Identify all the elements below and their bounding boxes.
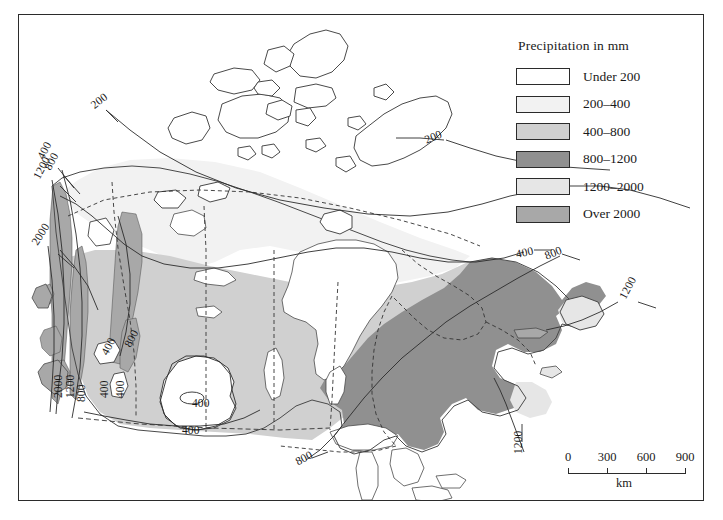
contour-label-400-15: 400 xyxy=(114,380,126,398)
scale-tick-600: 600 xyxy=(637,450,656,465)
island-pei xyxy=(540,366,562,378)
scale-rule xyxy=(562,466,702,475)
island-bathurst xyxy=(254,80,280,96)
legend-swatch-400-800 xyxy=(516,123,570,140)
leader-800-right xyxy=(562,254,580,260)
legend-item-400-800: 400–800 xyxy=(516,122,701,141)
legend-item-1200-2000: 1200–2000 xyxy=(516,177,701,196)
island-axel-heiberg xyxy=(264,46,294,72)
zone-1200-2000-ns xyxy=(510,382,552,418)
map-legend: Precipitation in mm Under 200 200–400 40… xyxy=(516,38,701,232)
legend-item-under-200: Under 200 xyxy=(516,67,701,86)
legend-label-over-2000: Over 2000 xyxy=(583,206,640,222)
legend-label-under-200: Under 200 xyxy=(583,69,640,85)
contour-label-800-13: 800 xyxy=(75,384,87,402)
scale-tick-300: 300 xyxy=(598,450,617,465)
scale-unit-label: km xyxy=(562,476,702,491)
contour-label-2000-11: 2000 xyxy=(52,375,64,398)
island-small-b xyxy=(262,144,280,158)
leader-200-left xyxy=(106,110,118,122)
lake-ontario xyxy=(436,474,466,488)
island-banks xyxy=(168,112,210,144)
scale-tick-mark-2 xyxy=(646,468,647,474)
island-small-d xyxy=(336,156,356,172)
precipitation-map-page: 2004008001200200020040080012004008002000… xyxy=(0,0,723,520)
scale-tick-mark-3 xyxy=(685,468,686,474)
legend-swatch-under-200 xyxy=(516,68,570,85)
island-ellesmere xyxy=(288,30,348,78)
contour-label-400-16: 400 xyxy=(192,397,210,409)
legend-label-400-800: 400–800 xyxy=(583,124,630,140)
legend-label-200-400: 200–400 xyxy=(583,96,630,112)
legend-swatch-200-400 xyxy=(516,96,570,113)
island-somerset xyxy=(296,108,316,126)
island-small-a xyxy=(238,146,256,160)
leader-800-bottom xyxy=(312,452,328,458)
contour-label-400-14: 400 xyxy=(98,380,110,398)
island-melville xyxy=(210,68,260,94)
contour-label-1200-19: 1200 xyxy=(512,431,524,454)
legend-swatch-over-2000 xyxy=(516,206,570,223)
legend-title: Precipitation in mm xyxy=(518,38,701,54)
scale-tick-900: 900 xyxy=(676,450,695,465)
island-small-c xyxy=(306,138,326,152)
lake-michigan xyxy=(356,452,378,500)
contour-label-400-17: 400 xyxy=(182,424,200,436)
island-devon xyxy=(294,84,336,108)
scale-tick-mark-1 xyxy=(607,468,608,474)
leader-1200-right xyxy=(638,302,656,308)
legend-item-200-400: 200–400 xyxy=(516,95,701,114)
island-small-g xyxy=(374,84,394,100)
legend-label-800-1200: 800–1200 xyxy=(583,151,637,167)
legend-item-over-2000: Over 2000 xyxy=(516,205,701,224)
scale-tick-mark-0 xyxy=(568,468,569,474)
map-scale-bar: 0 300 600 900 km xyxy=(562,450,702,491)
island-small-h xyxy=(348,116,366,130)
scale-tick-labels: 0 300 600 900 xyxy=(562,450,702,465)
legend-swatch-800-1200 xyxy=(516,151,570,168)
legend-swatch-1200-2000 xyxy=(516,178,570,195)
scale-tick-0: 0 xyxy=(565,450,571,465)
lake-huron xyxy=(390,448,424,486)
legend-item-800-1200: 800–1200 xyxy=(516,150,701,169)
scale-line xyxy=(568,473,686,474)
legend-label-1200-2000: 1200–2000 xyxy=(583,179,644,195)
